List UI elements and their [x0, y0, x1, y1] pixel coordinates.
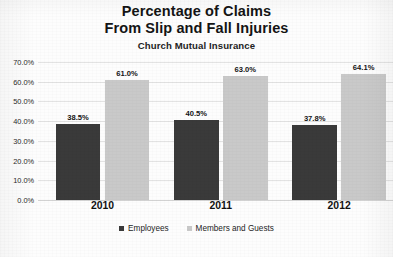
- bar-2011-employees: 40.5%: [174, 120, 219, 200]
- chart-title-block: Percentage of Claims From Slip and Fall …: [0, 0, 393, 53]
- x-tick-label-2012: 2012: [328, 200, 351, 211]
- bar-value-label: 40.5%: [186, 109, 208, 118]
- bar-fill: [56, 124, 101, 200]
- bar-value-label: 61.0%: [116, 69, 138, 78]
- grid-area: 38.5%61.0%40.5%63.0%37.8%64.1%: [38, 62, 393, 200]
- bar-group: 37.8%64.1%: [292, 62, 386, 200]
- bar-fill: [292, 125, 337, 200]
- y-tick-label: 70.0%: [13, 58, 34, 67]
- cut-off-footer-text: [6, 250, 387, 256]
- chart-subtitle: Church Mutual Insurance: [0, 39, 393, 53]
- x-axis-labels: 201020112012: [38, 200, 393, 216]
- legend-item-members-and-guests[interactable]: Members and Guests: [187, 224, 274, 233]
- bar-group: 38.5%61.0%: [56, 62, 150, 200]
- plot-area: 0.0%10.0%20.0%30.0%40.0%50.0%60.0%70.0% …: [0, 62, 393, 200]
- x-tick-label-2010: 2010: [91, 200, 114, 211]
- bar-fill: [223, 76, 268, 200]
- y-axis-labels: 0.0%10.0%20.0%30.0%40.0%50.0%60.0%70.0%: [0, 62, 38, 200]
- y-tick-label: 50.0%: [13, 97, 34, 106]
- legend-swatch-icon: [187, 226, 192, 231]
- bar-2012-members-and-guests: 64.1%: [341, 74, 386, 200]
- legend-swatch-icon: [119, 226, 124, 231]
- bar-2010-members-and-guests: 61.0%: [105, 80, 150, 200]
- y-tick-label: 0.0%: [17, 196, 34, 205]
- legend-label: Members and Guests: [196, 224, 274, 233]
- bar-2011-members-and-guests: 63.0%: [223, 76, 268, 200]
- legend-item-employees[interactable]: Employees: [119, 224, 169, 233]
- bar-fill: [105, 80, 150, 200]
- y-tick-label: 10.0%: [13, 176, 34, 185]
- y-tick-label: 40.0%: [13, 117, 34, 126]
- bar-2010-employees: 38.5%: [56, 124, 101, 200]
- bar-2012-employees: 37.8%: [292, 125, 337, 200]
- bar-value-label: 37.8%: [304, 114, 326, 123]
- bar-value-label: 64.1%: [353, 63, 375, 72]
- x-tick-label-2011: 2011: [210, 200, 233, 211]
- bar-fill: [174, 120, 219, 200]
- chart-title-line-2: From Slip and Fall Injuries: [0, 20, 393, 37]
- legend-label: Employees: [128, 224, 169, 233]
- chart-title-line-1: Percentage of Claims: [0, 3, 393, 20]
- y-tick-label: 60.0%: [13, 77, 34, 86]
- bars-layer: 38.5%61.0%40.5%63.0%37.8%64.1%: [38, 62, 393, 200]
- bar-value-label: 38.5%: [67, 113, 89, 122]
- bar-group: 40.5%63.0%: [174, 62, 268, 200]
- y-tick-label: 30.0%: [13, 136, 34, 145]
- chart-container: Percentage of Claims From Slip and Fall …: [0, 0, 393, 257]
- bar-value-label: 63.0%: [235, 65, 257, 74]
- bar-fill: [341, 74, 386, 200]
- y-tick-label: 20.0%: [13, 156, 34, 165]
- chart-legend: EmployeesMembers and Guests: [0, 224, 393, 233]
